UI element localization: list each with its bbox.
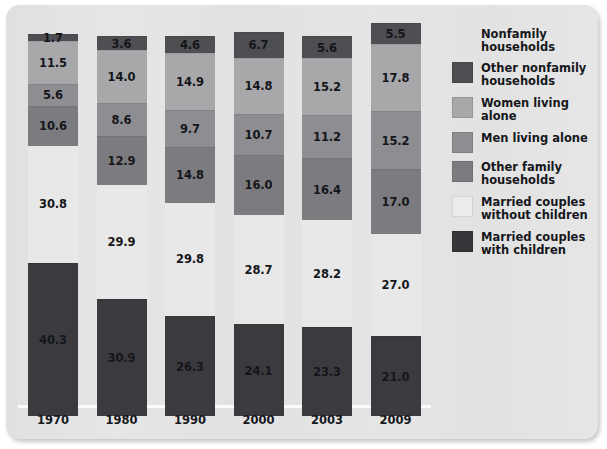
- segment-value-label: 16.0: [245, 178, 273, 192]
- legend-item-label: Other nonfamily households: [481, 61, 598, 89]
- bar-segment[interactable]: 24.1: [234, 324, 284, 416]
- segment-value-label: 14.9: [176, 75, 204, 89]
- legend-item[interactable]: Nonfamily households: [452, 27, 598, 55]
- bar-column[interactable]: 21.027.017.015.217.85.5: [371, 36, 421, 416]
- bar-segment[interactable]: 23.3: [302, 327, 352, 416]
- legend-item-label: Men living alone: [481, 131, 588, 145]
- bar-segment[interactable]: 40.3: [28, 263, 78, 416]
- bar-segment[interactable]: 28.7: [234, 215, 284, 324]
- bar-segment[interactable]: 29.9: [97, 185, 147, 299]
- legend-item-label: Women living alone: [481, 96, 598, 124]
- segment-value-label: 26.3: [176, 360, 204, 374]
- segment-value-label: 11.5: [39, 56, 67, 70]
- bar-segment[interactable]: 15.2: [371, 111, 421, 169]
- bar-segment[interactable]: 9.7: [165, 110, 215, 147]
- baseline-axis: [18, 405, 431, 408]
- bar-segment[interactable]: 16.4: [302, 158, 352, 220]
- legend-item[interactable]: Men living alone: [452, 131, 598, 153]
- legend-swatch-icon: [452, 161, 473, 182]
- bar-segment[interactable]: 1.7: [28, 34, 78, 40]
- bar-column[interactable]: 40.330.810.65.611.51.7: [28, 36, 78, 416]
- segment-value-label: 27.0: [382, 278, 410, 292]
- bar-segment[interactable]: 14.0: [97, 50, 147, 103]
- segment-value-label: 11.2: [313, 130, 341, 144]
- segment-value-label: 17.8: [382, 71, 410, 85]
- x-axis-year-label: 2009: [371, 413, 421, 427]
- segment-value-label: 14.0: [108, 70, 136, 84]
- segment-value-label: 30.9: [108, 351, 136, 365]
- legend-item-label: Married couples without children: [481, 195, 598, 223]
- bar-segment[interactable]: 11.2: [302, 115, 352, 158]
- bar-segment[interactable]: 10.6: [28, 106, 78, 146]
- segment-value-label: 10.7: [245, 128, 273, 142]
- bar-segment[interactable]: 28.2: [302, 220, 352, 327]
- legend-item-label: Nonfamily households: [481, 27, 598, 55]
- bar-segment[interactable]: 17.0: [371, 169, 421, 234]
- bar-segment[interactable]: 29.8: [165, 203, 215, 316]
- legend-item[interactable]: Other nonfamily households: [452, 61, 598, 89]
- legend-swatch-icon: [452, 132, 473, 153]
- bar-segment[interactable]: 3.6: [97, 36, 147, 50]
- bar-column[interactable]: 26.329.814.89.714.94.6: [165, 36, 215, 416]
- segment-value-label: 10.6: [39, 119, 67, 133]
- segment-value-label: 14.8: [245, 79, 273, 93]
- bar-segment[interactable]: 11.5: [28, 41, 78, 85]
- segment-value-label: 9.7: [180, 122, 200, 136]
- x-axis-year-label: 1980: [97, 413, 147, 427]
- segment-value-label: 40.3: [39, 333, 67, 347]
- segment-value-label: 28.7: [245, 263, 273, 277]
- segment-value-label: 14.8: [176, 168, 204, 182]
- segment-value-label: 5.5: [385, 27, 405, 41]
- bar-segment[interactable]: 26.3: [165, 316, 215, 416]
- bar-segment[interactable]: 14.8: [234, 58, 284, 114]
- segment-value-label: 8.6: [111, 113, 131, 127]
- bar-column[interactable]: 30.929.912.98.614.03.6: [97, 36, 147, 416]
- bar-segment[interactable]: 12.9: [97, 136, 147, 185]
- segment-value-label: 29.8: [176, 252, 204, 266]
- bar-segment[interactable]: 4.6: [165, 36, 215, 53]
- bar-segment[interactable]: 10.7: [234, 114, 284, 155]
- legend-item-label: Married couples with children: [481, 230, 598, 258]
- legend-item-label: Other family households: [481, 160, 598, 188]
- segment-value-label: 3.6: [111, 37, 131, 51]
- segment-value-label: 5.6: [317, 41, 337, 55]
- segment-value-label: 6.7: [248, 38, 268, 52]
- bar-column[interactable]: 24.128.716.010.714.86.7: [234, 36, 284, 416]
- bar-segment[interactable]: 5.6: [302, 36, 352, 57]
- bar-segment[interactable]: 15.2: [302, 58, 352, 116]
- segment-value-label: 15.2: [313, 80, 341, 94]
- chart-legend: Nonfamily householdsOther nonfamily hous…: [452, 27, 598, 264]
- legend-item[interactable]: Married couples with children: [452, 230, 598, 258]
- bar-segment[interactable]: 6.7: [234, 32, 284, 57]
- segment-value-label: 30.8: [39, 197, 67, 211]
- chart-card: 40.330.810.65.611.51.7197030.929.912.98.…: [6, 5, 598, 439]
- legend-item[interactable]: Women living alone: [452, 96, 598, 124]
- legend-item[interactable]: Other family households: [452, 160, 598, 188]
- bar-segment[interactable]: 14.8: [165, 147, 215, 203]
- segment-value-label: 1.7: [43, 31, 63, 45]
- segment-value-label: 24.1: [245, 364, 273, 378]
- bar-segment[interactable]: 17.8: [371, 44, 421, 112]
- x-axis-year-label: 1970: [28, 413, 78, 427]
- x-axis-year-label: 2003: [302, 413, 352, 427]
- bar-segment[interactable]: 27.0: [371, 234, 421, 337]
- segment-value-label: 23.3: [313, 365, 341, 379]
- x-axis-year-label: 2000: [234, 413, 284, 427]
- legend-swatch-icon: [452, 196, 473, 217]
- bar-segment[interactable]: 5.5: [371, 23, 421, 44]
- bar-segment[interactable]: 16.0: [234, 155, 284, 216]
- segment-value-label: 17.0: [382, 195, 410, 209]
- bar-column[interactable]: 23.328.216.411.215.25.6: [302, 36, 352, 416]
- bar-segment[interactable]: 14.9: [165, 53, 215, 110]
- bar-segment[interactable]: 30.9: [97, 299, 147, 416]
- segment-value-label: 29.9: [108, 235, 136, 249]
- segment-value-label: 4.6: [180, 38, 200, 52]
- bar-segment[interactable]: 5.6: [28, 84, 78, 105]
- legend-item[interactable]: Married couples without children: [452, 195, 598, 223]
- segment-value-label: 15.2: [382, 134, 410, 148]
- bar-segment[interactable]: 8.6: [97, 103, 147, 136]
- bar-segment[interactable]: 30.8: [28, 146, 78, 263]
- bar-segment[interactable]: 21.0: [371, 336, 421, 416]
- segment-value-label: 28.2: [313, 267, 341, 281]
- legend-swatch-icon: [452, 97, 473, 118]
